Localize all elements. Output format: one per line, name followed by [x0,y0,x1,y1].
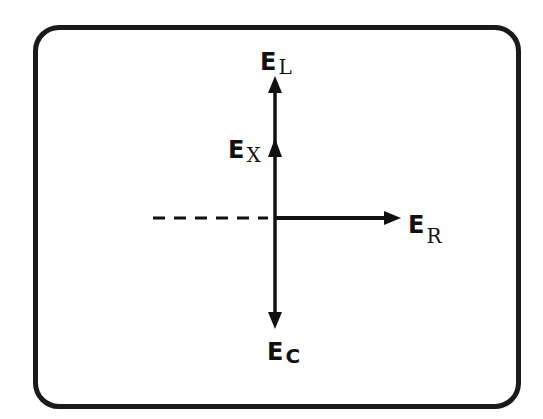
label-el: EL [260,48,292,79]
vector-ec [268,218,282,329]
label-ec: EC [267,338,300,368]
vector-er [275,211,401,225]
phasor-diagram: EL EX ER EC [0,0,543,419]
label-er: ER [408,211,442,248]
arrowhead-ex-icon [268,138,282,157]
label-ex: EX [228,136,261,167]
arrowhead-er-icon [384,211,401,225]
arrowhead-ec-icon [268,312,282,329]
